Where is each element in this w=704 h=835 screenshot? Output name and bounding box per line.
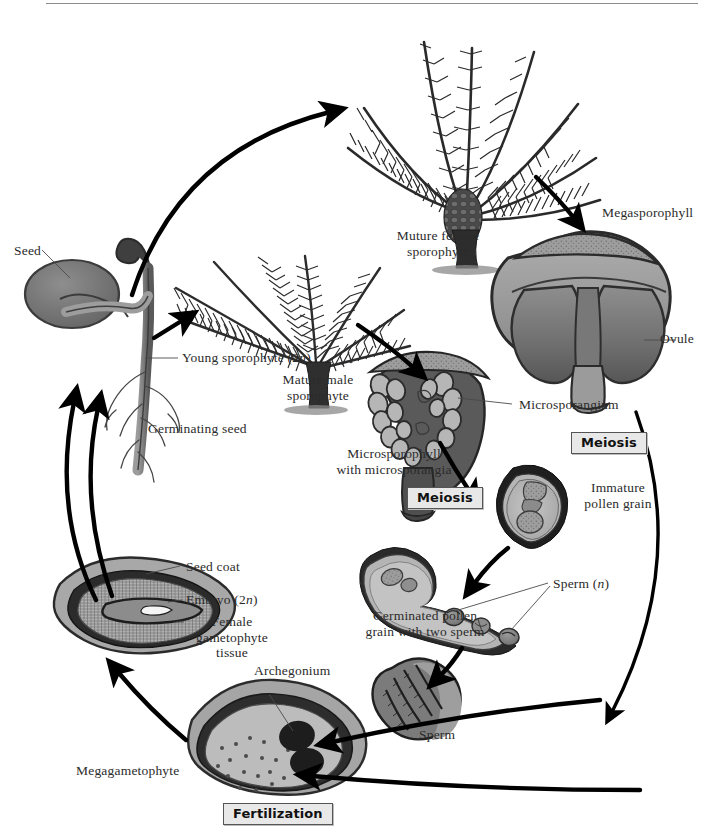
arrow-zygote-to-seed bbox=[118, 672, 186, 740]
arrow-ovule-to-fertilization bbox=[612, 412, 658, 712]
label-sperm-n: Sperm (n) bbox=[553, 576, 609, 592]
label-megasporophyll: Megasporophyll bbox=[602, 205, 693, 221]
label-seed: Seed bbox=[14, 243, 41, 259]
label-sperm: Sperm bbox=[419, 727, 455, 743]
label-young-sporophyte: Young sporophyte (2n) bbox=[182, 350, 311, 366]
phase-box-fertilization: Fertilization bbox=[223, 803, 333, 825]
phase-box-meiosis-left: Meiosis bbox=[407, 487, 483, 509]
arrow-pollen-to-sperm bbox=[440, 648, 462, 676]
arrow-pollen-germination bbox=[474, 548, 508, 584]
artwork-layer bbox=[0, 0, 704, 835]
label-germinating-seed: Germinating seed bbox=[148, 421, 247, 437]
figure-canvas: Seed Young sporophyte (2n) Germinating s… bbox=[0, 0, 704, 835]
label-mature-male-sporophyte: Mature malesporophyte bbox=[258, 372, 378, 403]
label-germinated-pollen-grain: Germinated pollengrain with two sperm bbox=[330, 608, 520, 639]
label-mature-female-sporophyte: Muture femalesporophyte bbox=[368, 228, 508, 259]
arrow-sperm-to-egg bbox=[332, 700, 600, 742]
label-archegonium: Archegonium bbox=[254, 663, 330, 679]
arrow-into-megagametophyte bbox=[312, 776, 640, 790]
label-megagametophyte: Megagametophyte bbox=[76, 763, 179, 779]
label-ovule: Ovule bbox=[660, 331, 694, 347]
label-embryo: Embryo (2n) bbox=[186, 592, 258, 608]
label-microsporangium: Microsporangium bbox=[519, 397, 619, 413]
label-seed-coat: Seed coat bbox=[186, 559, 240, 575]
megasporophyll-structure bbox=[492, 232, 670, 413]
label-female-gametophyte-tissue: Femalegametophytetissue bbox=[186, 614, 278, 661]
immature-pollen-grain-structure bbox=[496, 465, 567, 548]
phase-box-meiosis-right: Meiosis bbox=[571, 432, 647, 454]
label-microsporophyll: Microsporophyllwith microsporangia bbox=[306, 446, 482, 477]
arrow-seedling-to-male bbox=[154, 320, 183, 338]
seed-structure bbox=[25, 260, 128, 328]
label-immature-pollen-grain: Immaturepollen grain bbox=[562, 480, 674, 511]
